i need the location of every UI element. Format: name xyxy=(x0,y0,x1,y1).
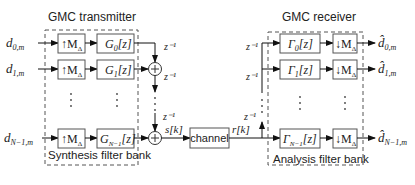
filter-Gamma0-label: Γ0[z] xyxy=(287,37,313,53)
input-d0: d0,m xyxy=(6,35,25,52)
adder-1 xyxy=(149,63,162,76)
output-d1-hat: d̂1,m xyxy=(378,61,397,78)
tx-delay-2: z⁻¹ xyxy=(162,111,175,122)
rx-row-1: Γ1[z] ↓MΔ d̂1,m xyxy=(262,60,397,79)
tx-delay-0: z⁻¹ xyxy=(163,41,176,52)
rx-row-0: Γ0[z] ↓MΔ d̂0,m xyxy=(262,34,397,53)
rx-row-n-1: ΓN−1[z] ↓MΔ d̂N−1,m xyxy=(280,129,407,148)
rx-delay-2: z⁻¹ xyxy=(243,111,256,122)
analysis-bank-label: Analysis filter bank xyxy=(273,153,369,165)
adder-n-1 xyxy=(149,132,162,145)
tx-row-1: d1,m ↑MΔ G1[z] xyxy=(6,60,148,79)
tx-delay-1: z⁻¹ xyxy=(163,71,176,82)
signal-r-k: r[k] xyxy=(232,123,250,135)
channel-label: channel xyxy=(190,132,229,144)
rx-ellipsis-chain xyxy=(261,99,263,113)
transmitter-title: GMC transmitter xyxy=(48,10,136,24)
tx-ellipsis xyxy=(70,93,156,111)
receiver-title: GMC receiver xyxy=(282,10,356,24)
synthesis-bank-label: Synthesis filter bank xyxy=(48,149,151,161)
output-d0-hat: d̂0,m xyxy=(378,35,397,52)
rx-delay-1: z⁻¹ xyxy=(245,71,258,82)
filter-G1-label: G1[z] xyxy=(105,63,132,79)
input-d1: d1,m xyxy=(6,61,25,78)
tx-row-n-1: dN−1,m ↑MΔ GN−1[z] xyxy=(4,129,148,148)
output-dN-1-hat: d̂N−1,m xyxy=(378,130,407,147)
signal-s-k: s[k] xyxy=(165,123,183,135)
rx-ellipsis xyxy=(299,96,346,110)
gmc-system-diagram: GMC transmitter Synthesis filter bank d0… xyxy=(0,0,415,185)
filter-G0-label: G0[z] xyxy=(105,37,132,53)
rx-delay-0: z⁻¹ xyxy=(245,41,258,52)
filter-Gamma1-label: Γ1[z] xyxy=(287,63,313,79)
tx-row-0: d0,m ↑MΔ G0[z] z⁻¹ xyxy=(6,34,176,62)
input-dN-1: dN−1,m xyxy=(4,130,33,147)
